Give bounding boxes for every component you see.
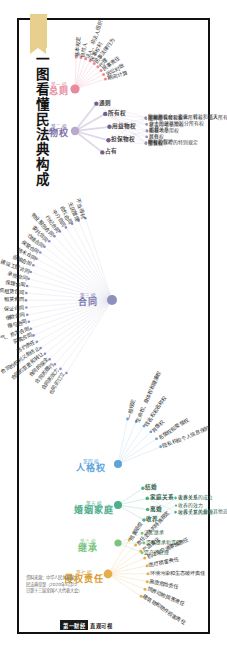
branch-label: 离婚 (150, 507, 162, 513)
branch-label: 用益物权 (112, 124, 136, 130)
branch-label: 收养关系的成立 (178, 496, 213, 502)
part-label-3: 第三编合同 (78, 293, 98, 308)
mindmap-labels: 基本规定自然人法人、非法人组织民事权利民事法律行为代理民事责任诉讼时效期间计算第… (0, 0, 227, 652)
part-label-6: 第六编继承 (78, 539, 98, 554)
branch-label: 所有权 (108, 111, 126, 117)
branch-label: 融资租赁合同 (0, 288, 24, 296)
branch-label: 占有 (105, 149, 117, 155)
branch-label: 医疗损害责任 (149, 557, 179, 569)
part-label-1: 第一编总则 (49, 82, 69, 97)
part-label-4: 第四编人格权 (76, 459, 106, 474)
branch-label: 质权 (149, 129, 159, 135)
branch-label: 抵押权 (148, 116, 163, 122)
branch-label: 收养关系的解除 (178, 510, 213, 516)
credit-tag: 第一财经 (60, 620, 88, 630)
branch-label: 担保物权 (111, 137, 135, 143)
branch-label: 收养的效力 (178, 503, 203, 509)
branch-label: 保证合同 (4, 305, 24, 312)
credit-block: 第一财经 直观可视 (60, 620, 112, 630)
infographic-poster: 一图看懂民法典构成 基本规定自然人法人、非法人组织民事权利民事法律行为代理民事责… (0, 0, 227, 652)
part-label-2: 第二编物权 (49, 124, 69, 139)
branch-label: 通则 (99, 101, 111, 107)
branch-label: 家庭关系 (150, 495, 174, 501)
branch-label: 建设用地使用权 (149, 122, 184, 128)
branch-label: 留置权 (148, 141, 163, 147)
credit-name: 直观可视 (90, 622, 112, 629)
branch-label: 环境污染和生态破坏责任 (150, 570, 205, 576)
branch-label: 租赁合同 (4, 298, 24, 304)
part-label-5: 第五编婚姻家庭 (74, 501, 114, 516)
branch-label: 结婚 (145, 485, 157, 491)
source-note: 资料来源：中华人民共和国 民法典草案（2020年5月22 日第十三届全国人大代表… (26, 575, 82, 595)
branch-label: 居住权 (149, 134, 164, 140)
